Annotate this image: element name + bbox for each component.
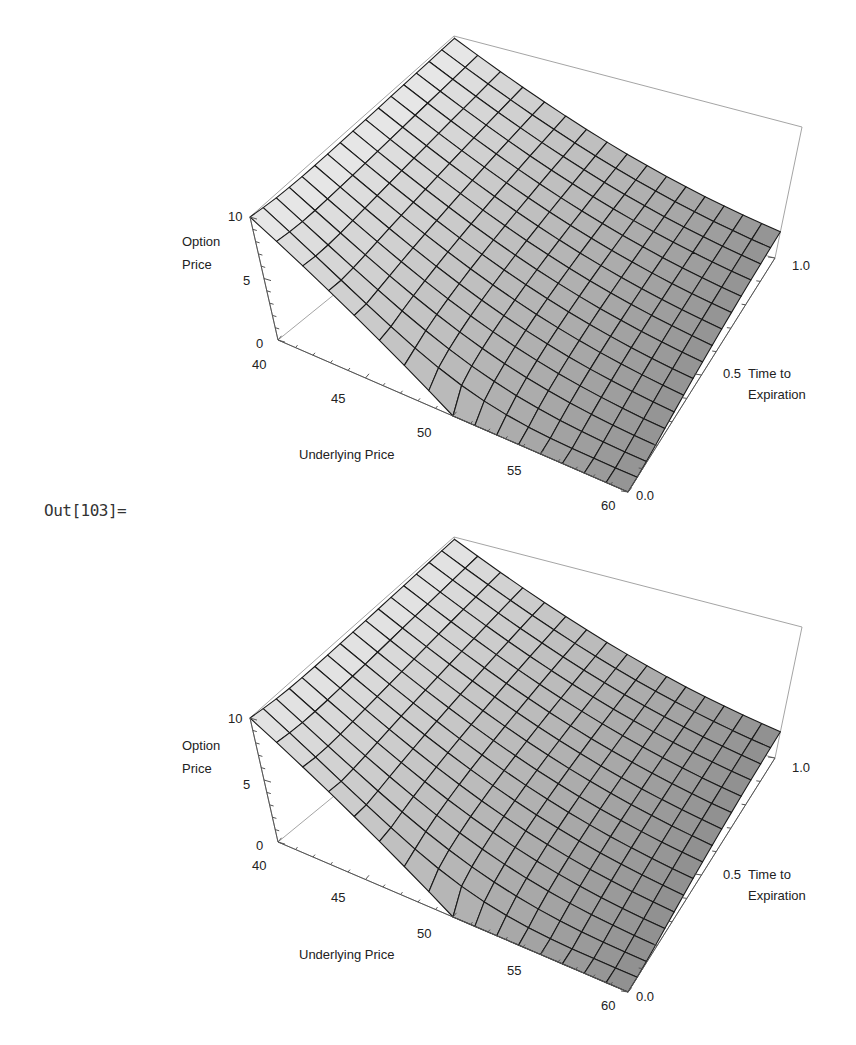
z-tick-10: 10 [228, 710, 242, 727]
y-tick-1: 1.0 [792, 257, 810, 274]
z-axis-label: Option Price [182, 737, 220, 777]
y-tick-0-5: 0.5 [723, 866, 741, 883]
x-tick-40: 40 [252, 857, 266, 874]
x-axis-label: Underlying Price [299, 446, 394, 463]
z-tick-5: 5 [243, 272, 250, 289]
surface-plot-1-canvas [0, 0, 856, 540]
surface-plot-1[interactable]: Option Price 10 5 0 40 45 50 55 60 Under… [0, 0, 856, 540]
y-tick-1: 1.0 [792, 759, 810, 776]
y-axis-label: Time to Expiration [748, 866, 806, 904]
x-tick-50: 50 [417, 925, 431, 942]
surface-plot-2-canvas [0, 492, 856, 1032]
x-tick-60: 60 [601, 997, 615, 1014]
x-tick-50: 50 [417, 424, 431, 441]
z-tick-5: 5 [243, 776, 250, 793]
x-tick-55: 55 [507, 962, 521, 979]
surface-plot-2[interactable]: Option Price 10 5 0 40 45 50 55 60 Under… [0, 492, 856, 1032]
x-tick-45: 45 [331, 889, 345, 906]
y-tick-0: 0.0 [636, 988, 654, 1005]
z-tick-0: 0 [256, 335, 263, 352]
x-tick-55: 55 [507, 462, 521, 479]
z-axis-label: Option Price [182, 233, 220, 273]
z-tick-10: 10 [228, 208, 242, 225]
y-tick-0-5: 0.5 [723, 365, 741, 382]
x-tick-40: 40 [252, 356, 266, 373]
x-tick-45: 45 [331, 390, 345, 407]
x-axis-label: Underlying Price [299, 946, 394, 963]
y-axis-label: Time to Expiration [748, 365, 806, 403]
z-tick-0: 0 [256, 837, 263, 854]
